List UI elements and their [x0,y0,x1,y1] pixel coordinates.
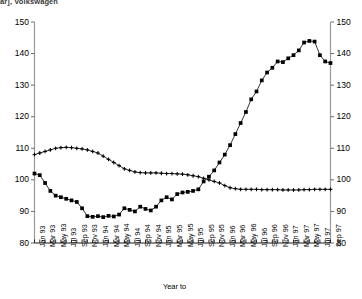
data-point [302,41,306,45]
data-point [59,195,63,199]
y-axis-left-tick-label: 110 [6,143,29,153]
data-point [271,66,275,70]
x-axis-tick-label: Jan 94 [101,225,110,247]
data-point [128,208,132,212]
data-point [318,53,322,57]
data-point [297,49,301,53]
data-point [75,200,79,204]
y-axis-left-tick-label: 90 [6,206,29,216]
data-point [154,205,158,209]
data-point [160,199,164,203]
data-point [281,60,285,64]
chart-plot-area [0,0,362,299]
y-axis-left-tick-label: 120 [6,111,29,121]
x-axis-tick-label: Mar 93 [48,225,57,247]
data-point [91,215,95,219]
x-axis-tick-label: May 96 [249,223,258,247]
data-point [329,61,333,65]
y-axis-left-tick-label: 80 [6,238,29,248]
data-point [265,71,269,75]
data-point [260,79,264,83]
x-axis-tick-label: Jul 94 [133,228,142,247]
data-point [191,189,195,193]
data-point [144,207,148,211]
y-axis-right-tick-label: 120 [337,111,351,121]
x-axis-tick-label: Nov 96 [281,224,290,247]
data-point [170,198,174,202]
data-point [181,191,185,195]
data-point [228,143,232,147]
data-point [244,110,248,114]
data-point [96,214,100,218]
data-point [175,192,179,196]
data-point [212,169,216,173]
y-axis-right-tick-label: 140 [337,48,351,58]
data-point [323,60,327,64]
x-axis-tick-label: May 97 [312,223,321,247]
chart-root: ar], Volkswagen 8090100110120130140150 8… [0,0,362,299]
data-point [234,132,238,136]
data-point [239,121,243,125]
data-point [286,56,290,60]
data-point [292,53,296,57]
y-axis-right-tick-label: 130 [337,80,351,90]
x-axis-tick-label: Sep 97 [334,224,343,247]
data-point [49,189,53,193]
data-point [38,173,42,177]
y-axis-right-tick-label: 100 [337,174,351,184]
data-point [54,194,58,198]
data-point [70,199,74,203]
x-axis-tick-label: May 95 [186,223,195,247]
data-point [186,190,190,194]
data-point [138,205,142,209]
x-axis-tick-label: Jan 93 [38,225,47,247]
data-point [117,213,121,217]
x-axis-tick-label: Mar 95 [175,225,184,247]
series-cross [33,145,333,191]
x-axis-tick-label: Sep 93 [80,224,89,247]
x-axis-tick-label: Mar 94 [112,225,121,247]
data-point [123,206,127,210]
data-point [149,209,153,213]
x-axis-tick-label: Nov 95 [217,224,226,247]
y-axis-left-tick-label: 150 [6,17,29,27]
series-square [33,39,333,219]
y-axis-right-tick-label: 110 [337,143,351,153]
x-axis-tick-label: May 93 [59,223,68,247]
x-axis-title: Year to [163,282,186,291]
data-point [249,98,253,102]
data-point [86,214,90,218]
x-axis-tick-label: Jul 93 [69,228,78,247]
x-axis-tick-label: Jul 96 [260,228,269,247]
x-axis-tick-label: Mar 97 [302,225,311,247]
x-axis-tick-label: Nov 94 [154,224,163,247]
data-point [197,187,201,191]
data-point [165,195,169,199]
series-line-1 [35,147,331,190]
x-axis-tick-label: Sep 95 [207,224,216,247]
x-axis-tick-label: Jul 95 [196,228,205,247]
x-axis-tick-label: Sep 96 [270,224,279,247]
y-axis-right-tick-label: 150 [337,17,351,27]
data-point [112,215,116,219]
x-axis-tick-label: Nov 93 [90,224,99,247]
data-point [43,181,47,185]
y-axis-left-tick-label: 100 [6,174,29,184]
data-point [80,206,84,210]
data-point [218,161,222,165]
x-axis-tick-label: Jul 97 [323,228,332,247]
x-axis-tick-label: Jan 95 [164,225,173,247]
data-point [101,215,105,219]
data-point [223,153,227,157]
data-point [64,197,68,201]
x-axis-tick-label: Sep 94 [143,224,152,247]
data-point [255,90,259,94]
y-axis-left-tick-label: 130 [6,80,29,90]
x-axis-tick-label: Jan 97 [291,225,300,247]
data-point [133,210,137,214]
x-axis-tick-label: Jan 96 [228,225,237,247]
data-point [33,172,37,176]
data-point [276,60,280,64]
data-point [107,214,111,218]
x-axis-tick-label: Mar 96 [238,225,247,247]
